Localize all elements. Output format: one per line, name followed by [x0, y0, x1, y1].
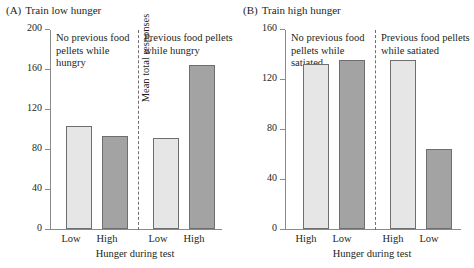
panel-a-tick-label-0: 0 [37, 221, 42, 235]
panel-b-x-label-1: High [286, 232, 326, 245]
panel-a-y-axis-line [50, 30, 51, 230]
panel-b-bar-1 [303, 64, 329, 229]
panel-b-x-label-4: Low [409, 232, 449, 245]
panel-b-tick-0: 0 [280, 229, 285, 230]
panel-a-x-label-2: High [87, 232, 127, 245]
panel-b-group-divider [375, 30, 376, 230]
panel-a-tag: (A) [6, 4, 21, 16]
panel-a-title: (A)Train low hunger [6, 4, 101, 17]
panel-b-tick-160: 160 [280, 29, 285, 30]
panel-b-group-caption-right: Previous food pellets while satiated [381, 32, 474, 57]
panel-a-bar-1 [66, 126, 92, 229]
panel-a-bar-2 [102, 136, 128, 229]
panel-b-bar-3 [390, 60, 416, 229]
panel-b-tick-label-120: 120 [262, 71, 277, 85]
panel-b-plot-area: 0 40 80 120 160 No previous food pellets… [285, 30, 461, 230]
panel-a-x-label-4: High [174, 232, 214, 245]
panel-a-tick-label-120: 120 [27, 101, 42, 115]
panel-a-tick-40: 40 [45, 189, 50, 190]
panel-b-x-label-3: High [373, 232, 413, 245]
panel-b-x-axis-title: Hunger during test [277, 247, 467, 260]
panel-b-bar-4 [426, 149, 452, 229]
panel-a-tick-label-160: 160 [27, 61, 42, 75]
panel-a-x-label-3: Low [138, 232, 178, 245]
panel-a-tick-label-40: 40 [32, 181, 42, 195]
panel-b-tick-label-80: 80 [267, 121, 277, 135]
panel-a-tick-label-200: 200 [27, 21, 42, 35]
panel-a-x-label-1: Low [51, 232, 91, 245]
panel-b-x-label-2: Low [322, 232, 362, 245]
panel-a-group-caption-right: Previous food pellets while hungry [144, 32, 236, 57]
panel-b: (B)Train high hunger Mean total response… [237, 0, 474, 268]
panel-a: (A)Train low hunger Mean total responses… [0, 0, 237, 268]
panel-b-tag: (B) [243, 4, 258, 16]
panel-a-tick-80: 80 [45, 149, 50, 150]
panel-a-group-caption-left: No previous food pellets while hungry [56, 32, 136, 70]
panel-a-tick-200: 200 [45, 29, 50, 30]
panel-b-tick-label-40: 40 [267, 171, 277, 185]
panel-b-title-text: Train high hunger [262, 4, 341, 16]
panel-a-tick-label-80: 80 [32, 141, 42, 155]
panel-b-tick-40: 40 [280, 179, 285, 180]
panel-a-tick-160: 160 [45, 69, 50, 70]
panel-b-bar-2 [339, 60, 365, 229]
figure-container: (A)Train low hunger Mean total responses… [0, 0, 474, 268]
panel-a-plot-area: 0 40 80 120 160 200 No previous food pel… [50, 30, 222, 230]
panel-b-y-axis-line [285, 30, 286, 230]
panel-a-tick-0: 0 [45, 229, 50, 230]
panel-a-x-axis-line [50, 229, 222, 230]
panel-b-tick-80: 80 [280, 129, 285, 130]
panel-b-tick-label-160: 160 [262, 21, 277, 35]
panel-b-y-axis-title: Mean total responses [139, 0, 153, 158]
panel-b-tick-120: 120 [280, 79, 285, 80]
panel-a-bar-4 [189, 65, 215, 229]
panel-a-x-axis-title: Hunger during test [40, 247, 230, 260]
panel-a-bar-3 [153, 138, 179, 229]
panel-b-x-axis-line [285, 229, 461, 230]
panel-a-tick-120: 120 [45, 109, 50, 110]
panel-b-tick-label-0: 0 [272, 221, 277, 235]
panel-a-title-text: Train low hunger [25, 4, 101, 16]
panel-b-title: (B)Train high hunger [243, 4, 341, 17]
